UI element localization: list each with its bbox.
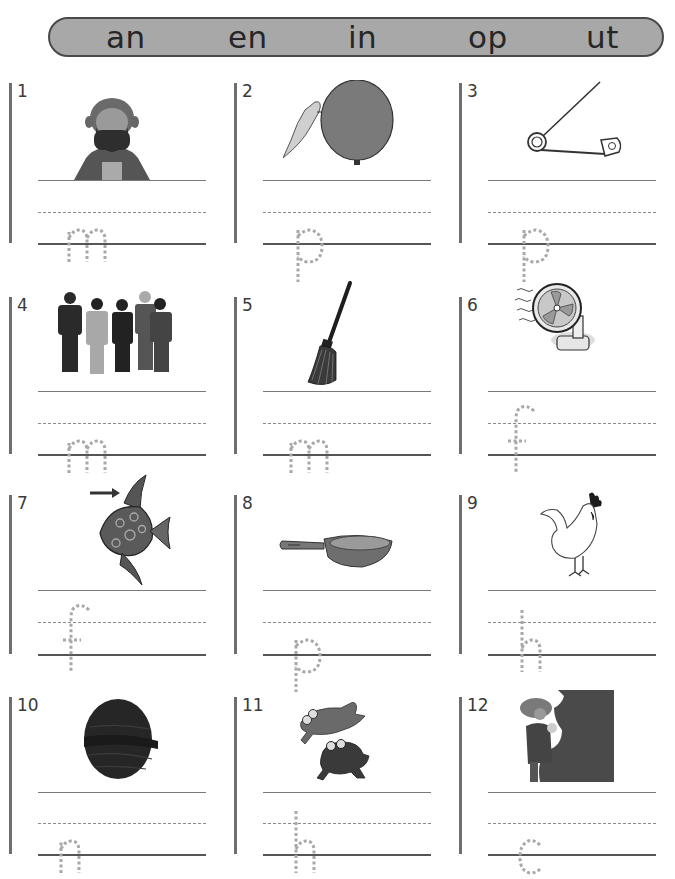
item-number: 12 (467, 695, 489, 715)
trace-letter-n (47, 803, 107, 879)
trace-letter-c (508, 803, 568, 879)
trace-letter-m (277, 403, 337, 497)
writing-line-top[interactable] (488, 180, 656, 181)
trace-letter-m (55, 192, 115, 286)
mop-picture (306, 280, 356, 394)
writing-line-top[interactable] (38, 391, 206, 392)
item-number: 8 (242, 493, 253, 513)
item-divider-bar (459, 83, 462, 243)
writing-line-top[interactable] (263, 792, 431, 793)
writing-line-top[interactable] (38, 590, 206, 591)
hen-picture (535, 490, 605, 584)
trace-letter-f (500, 403, 560, 497)
item-number: 5 (242, 295, 253, 315)
pan-picture (278, 531, 398, 575)
trace-letter-p (284, 192, 344, 286)
nut-picture (80, 697, 160, 786)
item-divider-bar (9, 697, 12, 854)
item-divider-bar (9, 495, 12, 654)
word-family-in: in (348, 19, 377, 55)
item-number: 3 (467, 81, 478, 101)
item-number: 11 (242, 695, 264, 715)
item-number: 10 (17, 695, 39, 715)
item-number: 7 (17, 493, 28, 513)
writing-line-top[interactable] (38, 180, 206, 181)
writing-line-top[interactable] (263, 180, 431, 181)
item-number: 4 (17, 295, 28, 315)
writing-line-top[interactable] (38, 792, 206, 793)
item-divider-bar (234, 297, 237, 454)
trace-letter-f (55, 602, 115, 696)
item-divider-bar (234, 495, 237, 654)
writing-line-top[interactable] (488, 590, 656, 591)
hopping-frogs-picture (293, 702, 388, 791)
man-cutting-picture (518, 690, 623, 789)
writing-line-top[interactable] (488, 391, 656, 392)
item-divider-bar (459, 297, 462, 454)
balloon-pin-picture (283, 80, 403, 179)
item-number: 9 (467, 493, 478, 513)
item-divider-bar (459, 697, 462, 854)
word-family-ut: ut (586, 19, 619, 55)
item-divider-bar (234, 697, 237, 854)
safety-pin-picture (525, 80, 625, 164)
item-number: 6 (467, 295, 478, 315)
fan-picture (515, 280, 605, 369)
item-number: 2 (242, 81, 253, 101)
trace-letter-h (282, 803, 342, 879)
item-number: 1 (17, 81, 28, 101)
item-divider-bar (9, 297, 12, 454)
fish-fin-picture (80, 473, 190, 592)
word-family-op: op (468, 19, 508, 55)
item-divider-bar (459, 495, 462, 654)
writing-line-top[interactable] (263, 590, 431, 591)
trace-letter-p (510, 192, 570, 286)
item-divider-bar (234, 83, 237, 243)
word-family-en: en (228, 19, 268, 55)
word-family-banner: an en in op ut (48, 17, 664, 57)
writing-line-top[interactable] (488, 792, 656, 793)
group-of-men-picture (50, 290, 175, 384)
trace-letter-h (508, 602, 568, 696)
item-divider-bar (9, 83, 12, 243)
word-family-an: an (106, 19, 146, 55)
writing-line-top[interactable] (263, 391, 431, 392)
man-with-beard-picture (72, 88, 152, 184)
trace-letter-p (282, 602, 342, 696)
